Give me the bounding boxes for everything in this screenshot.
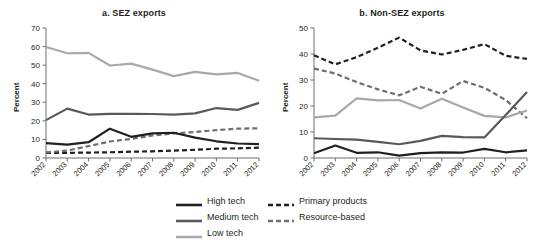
svg-text:30: 30 [299,76,308,85]
chart-panel-nonsez: b. Non-SEZ exports 010203040502002200320… [268,0,536,195]
legend-item-label: Resource-based [299,212,365,222]
svg-text:20: 20 [31,117,40,126]
svg-text:60: 60 [31,43,40,52]
y-axis-label-b: Percent [281,83,290,112]
svg-text:10: 10 [299,128,308,137]
legend-item-label: Primary products [299,196,367,206]
legend-swatch-line [176,212,202,222]
svg-text:2006: 2006 [114,160,132,178]
svg-text:2012: 2012 [510,160,528,178]
legend-swatch-line [268,196,294,206]
svg-text:2009: 2009 [446,160,464,178]
legend-item: Resource-based [268,209,367,225]
svg-text:10: 10 [31,135,40,144]
svg-text:2002: 2002 [29,160,47,178]
legend-swatch-line [176,196,202,206]
svg-text:40: 40 [31,80,40,89]
legend-column-solid: High techMedium techLow tech [176,193,259,241]
legend-item: Medium tech [176,209,259,225]
svg-text:2007: 2007 [136,160,154,178]
figure-container: a. SEZ exports Percent 01020304050607020… [0,0,536,244]
svg-text:2010: 2010 [468,160,486,178]
svg-text:2010: 2010 [200,160,218,178]
svg-text:2005: 2005 [361,160,379,178]
svg-text:2007: 2007 [404,160,422,178]
chart-legend: High techMedium techLow tech Primary pro… [0,193,536,244]
svg-text:2004: 2004 [72,160,90,178]
chart-panel-sez: a. SEZ exports Percent 01020304050607020… [0,0,268,195]
svg-text:2005: 2005 [93,160,111,178]
svg-text:2003: 2003 [51,160,69,178]
legend-item: High tech [176,193,259,209]
svg-text:50: 50 [31,61,40,70]
svg-text:2002: 2002 [297,160,315,178]
legend-item: Low tech [176,225,259,241]
legend-swatch-line [268,212,294,222]
legend-swatch-line [176,228,202,238]
svg-text:2011: 2011 [489,160,507,178]
legend-item: Primary products [268,193,367,209]
svg-text:2011: 2011 [221,160,239,178]
legend-item-label: High tech [207,196,245,206]
svg-text:2008: 2008 [157,160,175,178]
svg-text:2006: 2006 [382,160,400,178]
plot-area-a: 0102030405060702002200320042005200620072… [0,0,268,195]
svg-text:20: 20 [299,102,308,111]
svg-text:50: 50 [299,24,308,33]
plot-area-b: 0102030405020022003200420052006200720082… [268,0,536,195]
svg-text:2009: 2009 [178,160,196,178]
svg-text:2003: 2003 [319,160,337,178]
svg-text:70: 70 [31,24,40,33]
svg-text:2008: 2008 [425,160,443,178]
svg-text:2004: 2004 [340,160,358,178]
legend-item-label: Low tech [207,228,243,238]
legend-item-label: Medium tech [207,212,259,222]
legend-column-dashed: Primary productsResource-based [268,193,367,225]
svg-text:30: 30 [31,98,40,107]
svg-text:2012: 2012 [242,160,260,178]
svg-text:40: 40 [299,50,308,59]
